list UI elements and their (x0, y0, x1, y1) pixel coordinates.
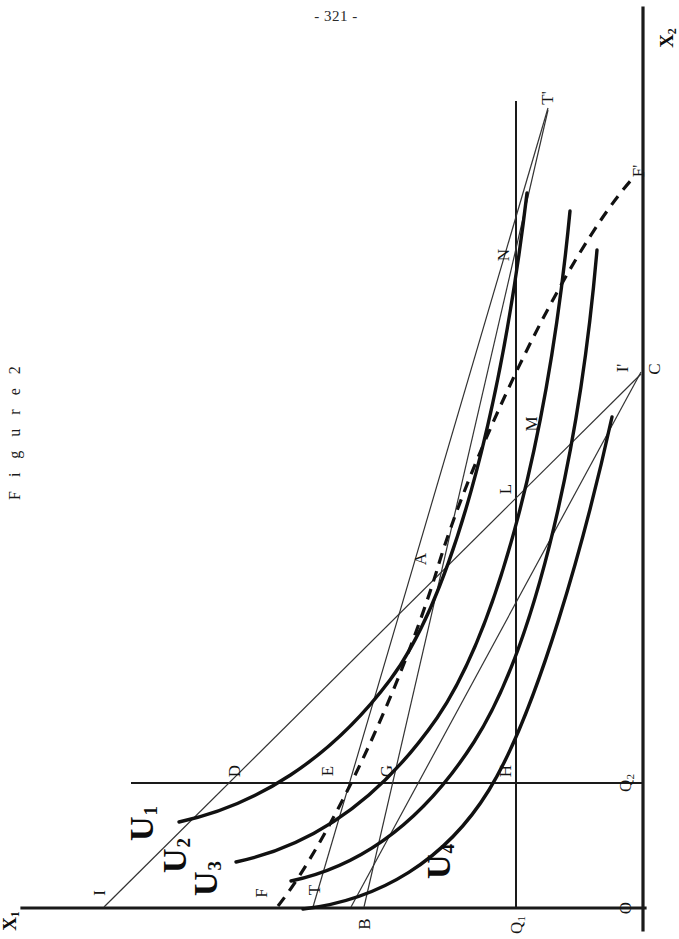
point-label-m: M (523, 416, 540, 431)
price-line-ic (104, 374, 641, 907)
point-label-n: N (495, 249, 512, 261)
point-label-f-prime: F' (630, 165, 647, 178)
point-label-e: E (319, 766, 336, 776)
point-label-h: H (497, 765, 514, 777)
axis-label-x1: X1 (0, 911, 19, 931)
point-label-q1: Q1 (508, 916, 525, 934)
point-label-f: F (253, 888, 270, 897)
point-label-l: L (497, 484, 514, 494)
point-label-i: I (91, 890, 108, 896)
point-label-q2: Q2 (617, 774, 634, 792)
curve-label-u2: U2 (158, 839, 192, 873)
point-label-c: C (646, 363, 663, 374)
point-label-d: D (226, 765, 243, 777)
curve-label-u4: U4 (422, 845, 456, 879)
price-line-iprime-c (351, 372, 641, 907)
point-label-a: A (412, 553, 429, 565)
point-label-b: B (356, 918, 373, 929)
indifference-curve-u1 (179, 193, 527, 822)
point-label-t-prime: T' (539, 91, 556, 104)
curve-label-u3: U3 (189, 862, 223, 896)
curve-label-u1: U1 (125, 807, 159, 841)
axis-label-x2: X2 (657, 28, 676, 48)
indifference-curve-u3 (291, 250, 597, 881)
point-label-o: O (617, 902, 634, 914)
point-label-i-prime: I' (614, 364, 631, 373)
point-label-t: T (306, 885, 323, 895)
indifference-curve-u2 (236, 211, 570, 862)
point-label-g: G (378, 765, 395, 777)
